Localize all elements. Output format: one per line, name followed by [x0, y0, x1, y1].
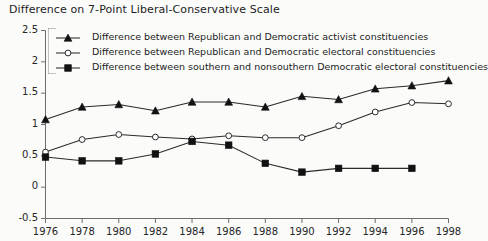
- x-tick-label: 1978: [62, 226, 102, 237]
- y-tick-label: 1: [6, 118, 38, 129]
- x-tick-label: 1992: [319, 226, 359, 237]
- y-tick-label: 0: [6, 180, 38, 191]
- y-tick-label: 2.5: [6, 24, 38, 35]
- y-tick-label: 1.5: [6, 86, 38, 97]
- x-tick-label: 1982: [135, 226, 175, 237]
- x-tick-label: 1994: [355, 226, 395, 237]
- chart-axes: [46, 31, 449, 219]
- x-tick-label: 1990: [282, 226, 322, 237]
- y-axis-ticks: [41, 31, 46, 219]
- x-tick-label: 1976: [26, 226, 66, 237]
- y-tick-label: 2: [6, 55, 38, 66]
- x-tick-label: 1996: [392, 226, 432, 237]
- chart-series-1: [42, 77, 453, 123]
- x-axis-ticks: [46, 219, 449, 224]
- y-tick-label: -0.5: [6, 212, 38, 223]
- chart-series-3: [42, 138, 415, 175]
- x-tick-label: 1988: [245, 226, 285, 237]
- chart-series-2: [43, 100, 452, 155]
- x-tick-label: 1980: [99, 226, 139, 237]
- x-tick-label: 1986: [209, 226, 249, 237]
- y-tick-label: 0.5: [6, 149, 38, 160]
- x-tick-label: 1998: [429, 226, 469, 237]
- x-tick-label: 1984: [172, 226, 212, 237]
